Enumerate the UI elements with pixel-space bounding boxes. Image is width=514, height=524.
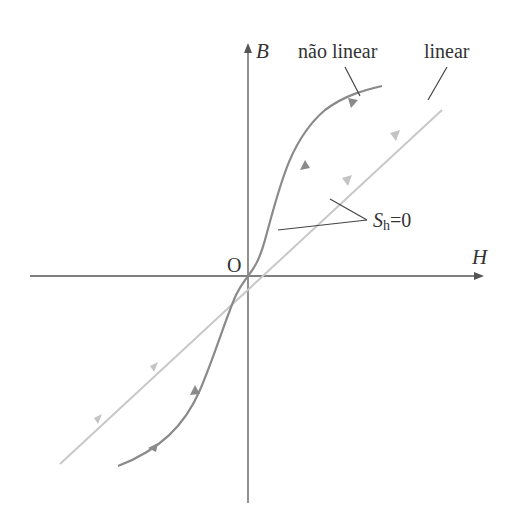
sh-subscript: h bbox=[383, 218, 390, 233]
sh-annotation: Sh=0 bbox=[373, 209, 411, 233]
linear-label: linear bbox=[424, 40, 470, 62]
bh-diagram: B H O não linear linear Sh=0 bbox=[0, 0, 514, 524]
linear-arrow-icon bbox=[150, 362, 158, 372]
sh-equals: =0 bbox=[390, 209, 411, 231]
b-axis-label: B bbox=[256, 39, 269, 63]
nonlinear-label: não linear bbox=[298, 40, 378, 62]
b-axis-arrowhead-icon bbox=[244, 43, 252, 53]
nonlinear-arrow-icon bbox=[300, 160, 310, 170]
linear-arrow-icon bbox=[94, 414, 102, 424]
nonlinear-arrow-icon bbox=[348, 98, 358, 108]
nonlinear-leader bbox=[345, 67, 360, 96]
nonlinear-arrow-icon bbox=[190, 385, 200, 395]
linear-leader bbox=[428, 67, 447, 100]
origin-label: O bbox=[227, 254, 241, 276]
linear-curve bbox=[60, 110, 442, 464]
h-axis-label: H bbox=[471, 245, 489, 269]
linear-arrow-icon bbox=[390, 130, 400, 141]
linear-arrow-icon bbox=[342, 175, 352, 186]
h-axis-arrowhead-icon bbox=[474, 272, 484, 280]
sh-symbol: S bbox=[373, 209, 383, 231]
